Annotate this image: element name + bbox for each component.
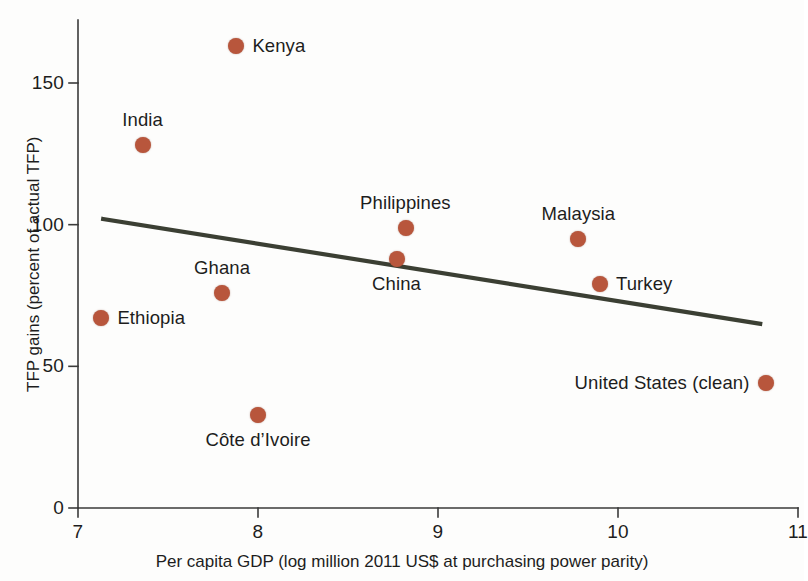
axes [69, 20, 798, 517]
data-point-label: India [122, 109, 163, 131]
x-tick-label: 11 [788, 521, 808, 543]
data-point-label: Malaysia [541, 203, 615, 225]
data-point-marker[interactable] [398, 220, 414, 236]
data-point-label: Turkey [616, 273, 672, 295]
data-point-label: Kenya [252, 35, 305, 57]
y-tick-label: 0 [53, 497, 64, 519]
data-point-marker[interactable] [758, 375, 774, 391]
x-axis-title: Per capita GDP (log million 2011 US$ at … [0, 552, 804, 572]
y-tick-label: 50 [42, 355, 64, 377]
data-point-label: United States (clean) [575, 372, 750, 394]
x-tick-label: 7 [73, 521, 84, 543]
y-axis-title: TFP gains (percent of actual TFP) [24, 136, 44, 391]
y-tick-label: 150 [32, 72, 64, 94]
data-point-label: Ghana [194, 257, 250, 279]
x-tick-label: 10 [607, 521, 629, 543]
data-point-label: China [372, 273, 421, 295]
data-point-label: Philippines [360, 192, 451, 214]
data-point-marker[interactable] [250, 407, 266, 423]
x-tick-label: 8 [253, 521, 264, 543]
x-tick-label: 9 [433, 521, 444, 543]
data-point-marker[interactable] [214, 285, 230, 301]
data-point-label: Ethiopia [117, 307, 185, 329]
data-point-label: Côte d’Ivoire [206, 429, 311, 451]
data-point-marker[interactable] [389, 251, 405, 267]
